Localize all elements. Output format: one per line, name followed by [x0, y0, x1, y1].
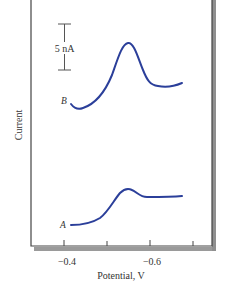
scale-bar-label: 5 nA [55, 43, 76, 54]
x-ticks [64, 240, 193, 246]
y-axis-label: Current [13, 110, 24, 141]
x-axis-label: Potential, V [97, 270, 145, 281]
x-tick-label-0-4: −0.4 [58, 256, 76, 267]
curve-a [71, 189, 182, 225]
x-tick-label-0-6: −0.6 [143, 256, 161, 267]
curve-a-label: A [59, 220, 66, 230]
plot-frame [31, 0, 212, 246]
chart: −0.4 −0.6 Potential, V Current 5 nA B A [0, 0, 231, 284]
frame-shadow-bottom [34, 247, 215, 251]
curve-b-label: B [61, 96, 67, 106]
curve-b [71, 43, 182, 109]
